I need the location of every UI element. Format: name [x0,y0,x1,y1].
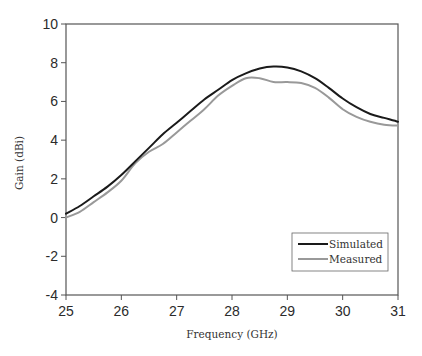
y-tick-label: -2 [46,248,59,264]
x-tick-label: 27 [169,303,185,319]
x-axis-title: Frequency (GHz) [186,328,277,340]
legend-label-simulated: Simulated [329,238,383,250]
x-tick-label: 26 [114,303,130,319]
x-tick-label: 25 [58,303,74,319]
legend-label-measured: Measured [329,253,383,265]
y-axis-title: Gain (dBi) [13,136,25,190]
x-tick-label: 30 [335,303,351,319]
x-tick-label: 29 [280,303,296,319]
y-axis: -4-20246810 [42,16,66,303]
x-tick-label: 28 [224,303,240,319]
y-tick-label: 0 [50,210,58,226]
y-tick-label: -4 [46,287,59,303]
x-axis: 25262728293031 [58,295,406,319]
y-tick-label: 4 [50,132,58,148]
y-tick-label: 8 [50,55,58,71]
x-tick-label: 31 [390,303,406,319]
legend: Simulated Measured [292,233,388,271]
y-tick-label: 6 [50,93,58,109]
y-tick-label: 2 [50,171,58,187]
y-tick-label: 10 [42,16,58,32]
gain-chart: -4-20246810 25262728293031 Frequency (GH… [0,0,422,356]
